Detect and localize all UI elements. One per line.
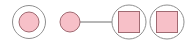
node-diagram bbox=[0, 0, 189, 44]
square-icon bbox=[119, 12, 140, 33]
node-4-ringed-square[interactable] bbox=[150, 5, 184, 39]
inner-circle-icon bbox=[19, 12, 39, 32]
node-3-ringed-square[interactable] bbox=[112, 5, 146, 39]
node-1-ringed-circle[interactable] bbox=[13, 6, 46, 39]
node-2-circle[interactable] bbox=[60, 12, 80, 32]
square-icon bbox=[157, 12, 178, 33]
circle-icon bbox=[60, 12, 80, 32]
